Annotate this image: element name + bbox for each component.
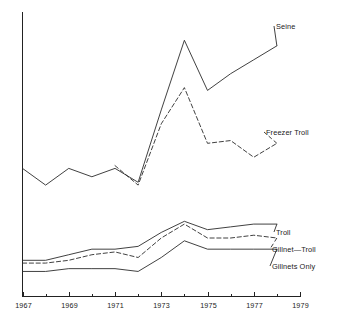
- x-tick-label: 1975: [200, 301, 217, 310]
- series-line-troll: [23, 221, 277, 260]
- series-leader-lines: [264, 26, 277, 266]
- series-line-freezer-troll: [115, 88, 277, 185]
- series-line-seine: [23, 40, 277, 185]
- series-line-gillnets-only: [23, 241, 277, 272]
- data-series-group: [23, 40, 277, 271]
- series-label-gillnet-troll: Gillnet—Troll: [272, 245, 316, 254]
- x-tick-label: 1979: [292, 301, 309, 310]
- x-tick-label: 1977: [246, 301, 263, 310]
- chart-plot-area: [0, 0, 338, 326]
- x-tick-label: 1971: [107, 301, 124, 310]
- x-tick-label: 1969: [61, 301, 78, 310]
- x-tick-label: 1967: [15, 301, 32, 310]
- series-label-gillnets-only: Gillnets Only: [272, 262, 315, 271]
- x-tick-label: 1973: [153, 301, 170, 310]
- series-label-freezer-troll: Freezer Troll: [266, 128, 309, 137]
- series-label-seine: Seine: [276, 22, 295, 31]
- series-line-gillnet-troll: [23, 224, 277, 263]
- series-label-troll: Troll: [276, 228, 291, 237]
- line-chart-figure: 1967196919711973197519771979 SeineFreeze…: [0, 0, 338, 326]
